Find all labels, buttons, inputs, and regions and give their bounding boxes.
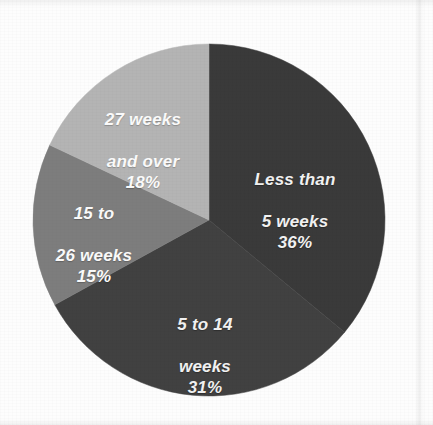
pie-slice-label-line1: Less than xyxy=(254,170,335,189)
scanned-page: Less than 5 weeks 36% 5 to 14 weeks 31% … xyxy=(0,0,433,425)
pie-slice-label-line1: 5 to 14 xyxy=(177,315,232,334)
pie-slice-label-line2: 26 weeks xyxy=(56,246,132,265)
pie-slice-percent: 31% xyxy=(142,377,268,398)
pie-slice-percent: 18% xyxy=(78,172,208,193)
pie-slice-label-line2: weeks xyxy=(179,357,231,376)
pie-slice-label-line1: 27 weeks xyxy=(105,110,181,129)
pie-slice-percent: 15% xyxy=(30,266,158,287)
pie-slice-label-less-than-5-weeks: Less than 5 weeks 36% xyxy=(232,148,358,274)
pie-slice-label-line2: 5 weeks xyxy=(262,212,329,231)
pie-slice-label-line2: and over xyxy=(107,152,179,171)
pie-slice-label-5-to-14-weeks: 5 to 14 weeks 31% xyxy=(142,293,268,419)
pie-chart: Less than 5 weeks 36% 5 to 14 weeks 31% … xyxy=(0,0,433,425)
pie-slice-percent: 36% xyxy=(232,232,358,253)
pie-slice-label-27-weeks-and-over: 27 weeks and over 18% xyxy=(78,88,208,214)
